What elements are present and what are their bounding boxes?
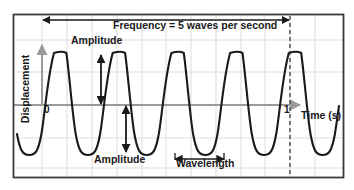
wavelength-annotation-label: Wavelength — [176, 157, 235, 169]
wave-diagram-figure: Frequency = 5 waves per second Amplitude… — [0, 0, 354, 190]
x-tick-label-origin: 0 — [44, 104, 50, 115]
amplitude-bottom-annotation-label: Amplitude — [94, 153, 145, 165]
plot-background — [13, 14, 344, 178]
amplitude-top-annotation-label: Amplitude — [71, 34, 122, 46]
frequency-annotation-label: Frequency = 5 waves per second — [113, 19, 277, 31]
x-axis-label: Time (s) — [301, 109, 341, 121]
y-axis-label: Displacement — [19, 50, 31, 128]
x-tick-label-end: 1 — [284, 104, 290, 115]
